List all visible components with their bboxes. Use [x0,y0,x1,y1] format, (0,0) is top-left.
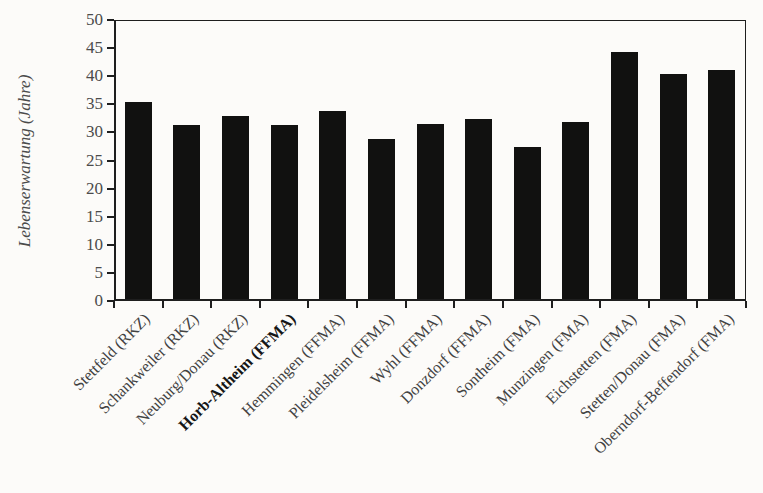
life-expectancy-bar-chart: Lebenserwartung (Jahre) 0510152025303540… [0,0,763,493]
x-axis-tick [307,301,309,308]
bar [708,70,735,299]
x-axis-tick [405,301,407,308]
x-axis-tick [113,301,115,308]
y-tick-label: 15 [61,208,103,226]
x-axis-tick [745,301,747,308]
x-axis-tick [648,301,650,308]
y-axis-tick [107,188,114,190]
x-axis-tick [453,301,455,308]
x-category-label: Eichstetten (FMA) [542,310,639,407]
bar [173,125,200,299]
bar [660,74,687,299]
x-axis-tick [259,301,261,308]
y-axis-tick [107,244,114,246]
y-tick-label: 0 [61,292,103,310]
y-axis-tick [107,131,114,133]
bar [611,52,638,299]
y-tick-label: 30 [61,123,103,141]
y-tick-label: 45 [61,39,103,57]
y-tick-label: 25 [61,152,103,170]
bar [368,139,395,299]
y-axis-tick [107,19,114,21]
bar [222,116,249,299]
y-tick-label: 5 [61,264,103,282]
bar [562,122,589,299]
x-category-label: Donzdorf (FFMA) [397,310,494,407]
x-axis-tick [162,301,164,308]
x-axis-tick [356,301,358,308]
x-category-label: Munzingen (FMA) [492,310,590,408]
y-axis-tick [107,160,114,162]
x-category-label: Sontheim (FMA) [452,310,542,400]
y-tick-label: 20 [61,180,103,198]
y-axis-tick [107,75,114,77]
y-tick-label: 10 [61,236,103,254]
x-axis-tick [551,301,553,308]
x-axis-tick [210,301,212,308]
bar [465,119,492,299]
y-axis-tick [107,103,114,105]
y-tick-label: 35 [61,95,103,113]
y-axis-tick [107,47,114,49]
bar [319,111,346,299]
x-axis-tick [502,301,504,308]
y-tick-label: 50 [61,11,103,29]
y-axis-tick [107,272,114,274]
bar [271,125,298,299]
y-axis-title: Lebenserwartung (Jahre) [15,75,35,248]
x-axis-tick [696,301,698,308]
bar [417,124,444,299]
y-tick-label: 40 [61,67,103,85]
y-axis-tick [107,216,114,218]
bar [125,102,152,299]
x-axis-tick [599,301,601,308]
bar [514,147,541,299]
